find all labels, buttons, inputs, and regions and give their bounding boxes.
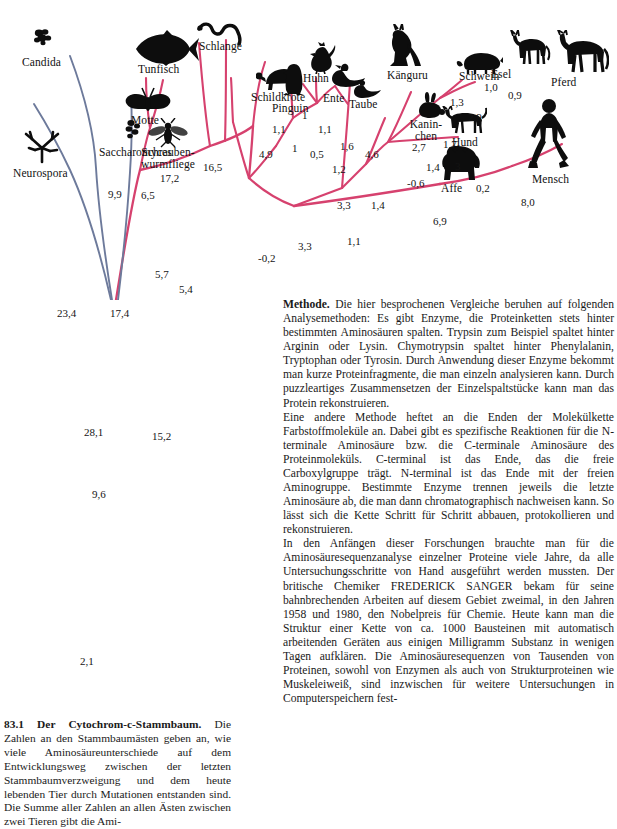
branch-value-1-4b: 1,4: [426, 161, 440, 173]
pigeon-icon: [351, 80, 383, 100]
branch-value-3: 3: [455, 160, 461, 172]
body-paragraph-2: Eine andere Methode heftet an die Enden …: [283, 411, 614, 538]
branch-value-minus-0-2: -0,2: [258, 252, 275, 264]
branch-value-28-1: 28,1: [84, 426, 103, 438]
branch-value-2-9: 2,9: [468, 111, 482, 123]
cytochrome-c-phylogenetic-tree-figure: Candida Neurospora Saccharomyces Tunfisc…: [0, 0, 617, 300]
branch-value-17-2: 17,2: [160, 172, 179, 184]
taxon-label-schraubenwurmfliege: Schrauben-wurmfliege: [140, 147, 196, 170]
screwworm-fly-icon: [148, 118, 188, 148]
branch-value-4-6: 4,6: [365, 148, 379, 160]
yeast-cluster-icon-candida: [30, 27, 56, 47]
branch-value-3-3b: 3,3: [298, 240, 312, 252]
branch-value-1-3: 1,3: [450, 96, 464, 108]
kangaroo-icon: [384, 24, 422, 70]
taxon-label-kaninchen-text: Kanin-chen: [410, 118, 443, 142]
branch-value-1b: 1: [292, 142, 298, 154]
branch-value-1-1c: 1,1: [347, 235, 361, 247]
figure-caption-text: Die Zahlen an den Stammbaumästen geben a…: [4, 718, 231, 827]
branch-value-1-0: 1,0: [484, 81, 498, 93]
branch-value-23-4: 23,4: [57, 307, 76, 319]
branch-value-2-1: 2,1: [80, 655, 94, 667]
branch-value-1-6: 1,6: [340, 140, 354, 152]
branch-value-5-4: 5,4: [179, 283, 193, 295]
taxon-label-tunfisch: Tunfisch: [138, 63, 179, 75]
branch-value-0-2: 0,2: [476, 182, 490, 194]
branch-value-1a: 1: [302, 109, 308, 121]
taxon-label-huhn: Huhn: [303, 72, 329, 84]
human-walking-icon: [528, 98, 570, 170]
branch-value-16-5: 16,5: [203, 161, 222, 173]
body-paragraph-1-lead: Methode.: [283, 298, 330, 311]
branch-value-6-5: 6,5: [141, 189, 155, 201]
branch-value-0-5: 0,5: [310, 148, 324, 160]
branch-value-5-7: 5,7: [155, 268, 169, 280]
body-text-column: Methode. Die hier besprochenen Vergleich…: [283, 298, 614, 706]
moth-icon: [124, 86, 172, 116]
horse-icon: [553, 30, 609, 76]
taxon-label-schraubenwurmfliege-text: Schrauben-wurmfliege: [141, 146, 195, 170]
branch-value-1-1a: 1,1: [272, 123, 286, 135]
branch-value-1-7: 1,7: [443, 138, 457, 150]
taxon-label-affe: Affe: [441, 182, 462, 194]
body-paragraph-3: In den Anfängen dieser Forschungen brauc…: [283, 537, 614, 706]
branch-value-1-2: 1,2: [332, 163, 346, 175]
taxon-label-candida: Candida: [22, 56, 61, 68]
taxon-label-taube: Taube: [349, 98, 377, 110]
taxon-label-neurospora: Neurospora: [13, 167, 68, 179]
branch-value-2-7: 2,7: [412, 141, 426, 153]
taxon-label-schlange: Schlange: [199, 40, 242, 52]
mold-hyphae-icon-neurospora: [22, 130, 62, 164]
penguin-icon: [283, 62, 305, 96]
branch-value-6-9: 6,9: [433, 215, 447, 227]
branch-value-15-2: 15,2: [152, 430, 171, 442]
taxon-label-kaenguru: Känguru: [387, 69, 428, 81]
branch-value-4-9: 4,9: [259, 148, 273, 160]
body-paragraph-1: Methode. Die hier besprochenen Vergleich…: [283, 298, 614, 411]
taxon-label-mensch: Mensch: [532, 173, 569, 185]
branch-value-3-3a: 3,3: [337, 199, 351, 211]
donkey-icon: [507, 30, 551, 68]
taxon-label-pferd: Pferd: [551, 76, 576, 88]
branch-value-1-4a: 1,4: [371, 199, 385, 211]
body-paragraph-1-text: Die hier besprochenen Vergleiche beruhen…: [283, 298, 614, 410]
tuna-fish-icon: [133, 30, 199, 66]
branch-value-minus-0-6: -0,6: [407, 177, 424, 189]
branch-value-0-9: 0,9: [508, 89, 522, 101]
taxon-label-ente: Ente: [323, 92, 344, 104]
branch-value-8-0: 8,0: [521, 196, 535, 208]
taxon-label-esel: Esel: [491, 68, 511, 80]
branch-value-9-6: 9,6: [92, 488, 106, 500]
figure-caption-paragraph: 83.1 Der Cytochrom-c-Stammbaum. Die Zahl…: [4, 718, 231, 829]
branch-value-17-4: 17,4: [110, 307, 129, 319]
branch-value-9-9: 9,9: [108, 188, 122, 200]
branch-value-1-1b: 1,1: [318, 123, 332, 135]
figure-caption: 83.1 Der Cytochrom-c-Stammbaum. Die Zahl…: [4, 718, 231, 829]
figure-caption-lead: 83.1 Der Cytochrom-c-Stammbaum.: [4, 718, 201, 730]
